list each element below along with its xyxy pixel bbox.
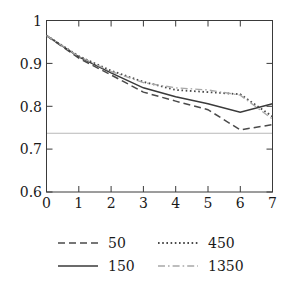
y-tick-label-1: 1 [33,13,42,29]
series-line-150 [47,36,273,113]
legend-label-150: 150 [108,258,135,274]
y-tick-label-0-6: 0.6 [20,184,42,200]
legend-label-1350: 1350 [208,258,244,274]
y-axis-ticks [47,21,273,193]
line-chart-svg: 1 0.9 0.8 0.7 0.6 0 1 2 3 4 5 6 7 50 150… [0,0,290,286]
chart-figure: 1 0.9 0.8 0.7 0.6 0 1 2 3 4 5 6 7 50 150… [0,0,290,286]
series-line-450 [47,36,273,117]
y-tick-label-0-7: 0.7 [20,141,42,157]
series-group [47,36,273,130]
x-tick-label-3: 3 [139,195,148,211]
x-tick-label-2: 2 [107,195,116,211]
y-tick-label-0-8: 0.8 [20,99,42,115]
legend-label-450: 450 [208,235,235,251]
legend-label-50: 50 [108,235,126,251]
series-line-50 [47,36,273,130]
x-tick-label-6: 6 [236,195,245,211]
x-tick-label-7: 7 [268,195,277,211]
x-tick-label-0: 0 [42,195,51,211]
chart-legend: 50 150 450 1350 [58,235,244,274]
x-tick-label-5: 5 [204,195,213,211]
series-line-1350 [47,36,273,120]
plot-frame [47,21,273,193]
y-tick-label-0-9: 0.9 [20,56,42,72]
x-axis-ticks [47,21,273,193]
x-tick-label-4: 4 [171,195,180,211]
x-tick-label-1: 1 [74,195,83,211]
